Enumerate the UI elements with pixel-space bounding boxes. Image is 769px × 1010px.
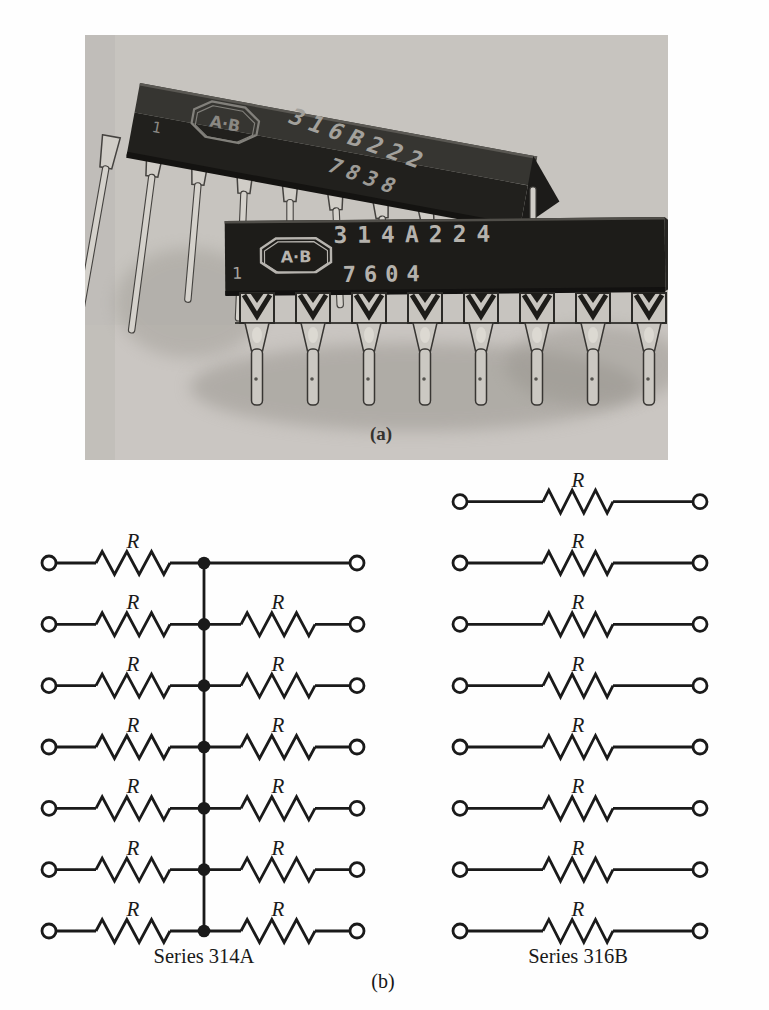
- pin-speck: [254, 377, 258, 381]
- terminal-circle: [693, 740, 707, 754]
- schematic-diagram: RRRRRRRRRRRRRSeries 314ARRRRRRRRSeries 3…: [0, 470, 769, 980]
- resistor-symbol: [241, 797, 315, 820]
- caption-b: (b): [350, 970, 416, 993]
- network-label: Series 316B: [528, 945, 628, 967]
- front-chip-leg: [296, 293, 330, 323]
- terminal-circle: [693, 679, 707, 693]
- resistor-label: R: [271, 590, 285, 614]
- terminal-circle: [350, 801, 364, 815]
- terminal-circle: [42, 924, 56, 938]
- front-chip-leg: [520, 293, 554, 323]
- terminal-circle: [453, 617, 467, 631]
- resistor-label: R: [571, 836, 585, 860]
- junction-dot: [198, 802, 211, 815]
- pin-bulb-shine: [252, 327, 262, 343]
- terminal-circle: [693, 801, 707, 815]
- terminal-circle: [693, 556, 707, 570]
- terminal-circle: [42, 679, 56, 693]
- resistor-label: R: [571, 713, 585, 737]
- front-chip-leg: [408, 293, 442, 323]
- pin-bulb-shine: [420, 327, 430, 343]
- pin-speck: [534, 377, 538, 381]
- resistor-symbol: [96, 919, 170, 942]
- resistor-label: R: [271, 774, 285, 798]
- resistor-symbol: [543, 490, 613, 513]
- resistor-label: R: [126, 897, 140, 921]
- resistor-symbol: [543, 735, 613, 758]
- front-chip-leg: [576, 293, 610, 323]
- resistor-symbol: [241, 858, 315, 881]
- resistor-symbol: [96, 613, 170, 636]
- pin1-marker: 1: [232, 264, 242, 283]
- date-code: 7604: [343, 261, 428, 287]
- part-number: 314A224: [333, 221, 500, 248]
- terminal-circle: [453, 801, 467, 815]
- resistor-symbol: [241, 919, 315, 942]
- resistor-symbol: [241, 613, 315, 636]
- terminal-circle: [453, 679, 467, 693]
- resistor-label: R: [571, 470, 585, 492]
- pin-shaft: [644, 349, 655, 405]
- terminal-circle: [42, 801, 56, 815]
- terminal-circle: [453, 924, 467, 938]
- resistor-label: R: [571, 897, 585, 921]
- terminal-circle: [453, 740, 467, 754]
- front-chip-leg: [352, 293, 386, 323]
- resistor-network-photo: A·B1316B2227838A·B1314A2247604: [85, 35, 668, 460]
- resistor-symbol: [96, 552, 170, 575]
- terminal-circle: [693, 924, 707, 938]
- resistor-symbol: [543, 797, 613, 820]
- terminal-circle: [42, 617, 56, 631]
- pin-bulb-shine: [532, 327, 542, 343]
- terminal-circle: [453, 863, 467, 877]
- network-label: Series 314A: [154, 945, 255, 967]
- resistor-label: R: [571, 529, 585, 553]
- terminal-circle: [350, 863, 364, 877]
- pin-shaft: [364, 349, 375, 405]
- resistor-label: R: [571, 590, 585, 614]
- logo-text: A·B: [281, 247, 312, 266]
- resistor-symbol: [96, 674, 170, 697]
- resistor-label: R: [271, 897, 285, 921]
- junction-dot: [198, 863, 211, 876]
- resistor-label: R: [271, 713, 285, 737]
- resistor-symbol: [543, 919, 613, 942]
- resistor-label: R: [126, 652, 140, 676]
- resistor-symbol: [96, 735, 170, 758]
- pin-speck: [422, 377, 426, 381]
- pin-speck: [366, 377, 370, 381]
- front-chip-leg: [240, 293, 274, 323]
- resistor-symbol: [543, 552, 613, 575]
- terminal-circle: [693, 495, 707, 509]
- pin-bulb-shine: [588, 327, 598, 343]
- terminal-circle: [693, 863, 707, 877]
- front-chip-leg: [632, 293, 666, 323]
- pin-speck: [478, 377, 482, 381]
- pin-bulb-shine: [308, 327, 318, 343]
- photo-panel: A·B1316B2227838A·B1314A2247604 (a): [85, 35, 668, 460]
- resistor-symbol: [241, 735, 315, 758]
- resistor-label: R: [271, 652, 285, 676]
- caption-a: (a): [348, 423, 414, 445]
- resistor-symbol: [96, 797, 170, 820]
- terminal-circle: [42, 863, 56, 877]
- resistor-symbol: [96, 858, 170, 881]
- resistor-label: R: [126, 836, 140, 860]
- junction-dot: [198, 925, 211, 938]
- pin-speck: [310, 377, 314, 381]
- pin-shaft: [308, 349, 319, 405]
- terminal-circle: [350, 740, 364, 754]
- front-chip-leg: [464, 293, 498, 323]
- pin-shaft: [476, 349, 487, 405]
- resistor-symbol: [543, 613, 613, 636]
- resistor-label: R: [571, 652, 585, 676]
- resistor-label: R: [126, 529, 140, 553]
- terminal-circle: [693, 617, 707, 631]
- junction-dot: [198, 679, 211, 692]
- resistor-symbol: [543, 858, 613, 881]
- figure-page: A·B1316B2227838A·B1314A2247604 (a) RRRRR…: [0, 0, 769, 1010]
- junction-dot: [198, 557, 211, 570]
- resistor-symbol: [543, 674, 613, 697]
- resistor-label: R: [126, 590, 140, 614]
- resistor-label: R: [126, 713, 140, 737]
